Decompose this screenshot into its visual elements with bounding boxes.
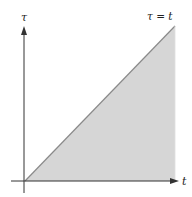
y-axis-arrow-icon — [21, 26, 27, 35]
x-axis-label: t — [182, 175, 187, 188]
diagonal-line-label: τ = t — [147, 10, 173, 22]
y-axis-label: τ — [21, 11, 28, 24]
integration-region-diagram: τ t τ = t — [0, 0, 192, 197]
